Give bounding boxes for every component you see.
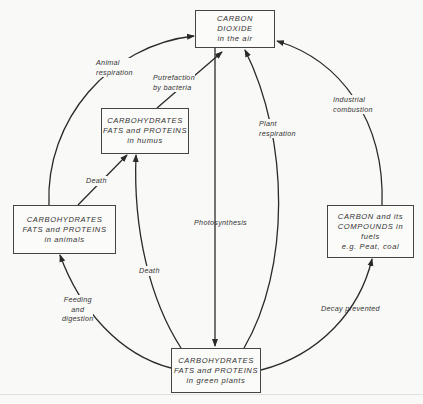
- node-carbon-dioxide: CARBON DIOXIDE in the air: [195, 10, 275, 48]
- label-animal-respiration: Animal respiration: [96, 58, 133, 77]
- label-line: Plant: [259, 119, 296, 129]
- label-line: Industrial: [333, 95, 373, 105]
- node-line: CARBOHYDRATES: [172, 356, 260, 366]
- label-line: respiration: [259, 129, 296, 139]
- label-decay-prevented: Decay prevented: [321, 304, 380, 314]
- node-line: FATS and PROTEINS: [172, 366, 260, 376]
- node-line: CARBON and its: [328, 212, 413, 222]
- node-line: FATS and PROTEINS: [102, 126, 188, 136]
- arrow-death-plants: [136, 155, 181, 348]
- label-plant-respiration: Plant respiration: [259, 119, 296, 138]
- node-line: in the air: [196, 34, 274, 44]
- label-putrefaction: Putrefaction by bacteria: [153, 73, 195, 92]
- label-feeding: Feeding and digestion: [62, 295, 93, 324]
- label-line: and: [62, 305, 93, 315]
- node-fuels: CARBON and its COMPOUNDS in fuels e.g. P…: [327, 205, 414, 258]
- node-line: CARBON: [196, 14, 274, 24]
- label-line: Death: [139, 266, 160, 276]
- node-line: in animals: [14, 235, 115, 245]
- node-humus: CARBOHYDRATES FATS and PROTEINS in humus: [101, 108, 189, 154]
- node-animals: CARBOHYDRATES FATS and PROTEINS in anima…: [13, 205, 116, 254]
- arrow-decay-prevented: [261, 259, 372, 370]
- label-line: Animal: [96, 58, 133, 68]
- node-line: CARBOHYDRATES: [14, 215, 115, 225]
- label-line: Decay prevented: [321, 304, 380, 314]
- label-line: Photosynthesis: [194, 218, 247, 228]
- node-line: CARBOHYDRATES: [102, 116, 188, 126]
- node-green-plants: CARBOHYDRATES FATS and PROTEINS in green…: [171, 348, 261, 393]
- node-line: in humus: [102, 136, 188, 146]
- label-death-animals: Death: [86, 176, 107, 186]
- label-line: respiration: [96, 68, 133, 78]
- node-line: fuels: [328, 232, 413, 242]
- label-death-plants: Death: [139, 266, 160, 276]
- node-line: in green plants: [172, 376, 260, 386]
- node-line: FATS and PROTEINS: [14, 225, 115, 235]
- label-line: Putrefaction: [153, 73, 195, 83]
- label-photosynthesis: Photosynthesis: [194, 218, 247, 228]
- page-edge-divider: [0, 394, 423, 395]
- node-line: COMPOUNDS in: [328, 222, 413, 232]
- label-line: Death: [86, 176, 107, 186]
- label-line: combustion: [333, 105, 373, 115]
- node-line: e.g. Peat, coal: [328, 242, 413, 252]
- label-line: Feeding: [62, 295, 93, 305]
- node-line: DIOXIDE: [196, 24, 274, 34]
- label-line: by bacteria: [153, 83, 195, 93]
- label-industrial-combustion: Industrial combustion: [333, 95, 373, 114]
- arrow-plant-respiration: [244, 50, 279, 348]
- label-line: digestion: [62, 314, 93, 324]
- connector-layer: [0, 0, 423, 404]
